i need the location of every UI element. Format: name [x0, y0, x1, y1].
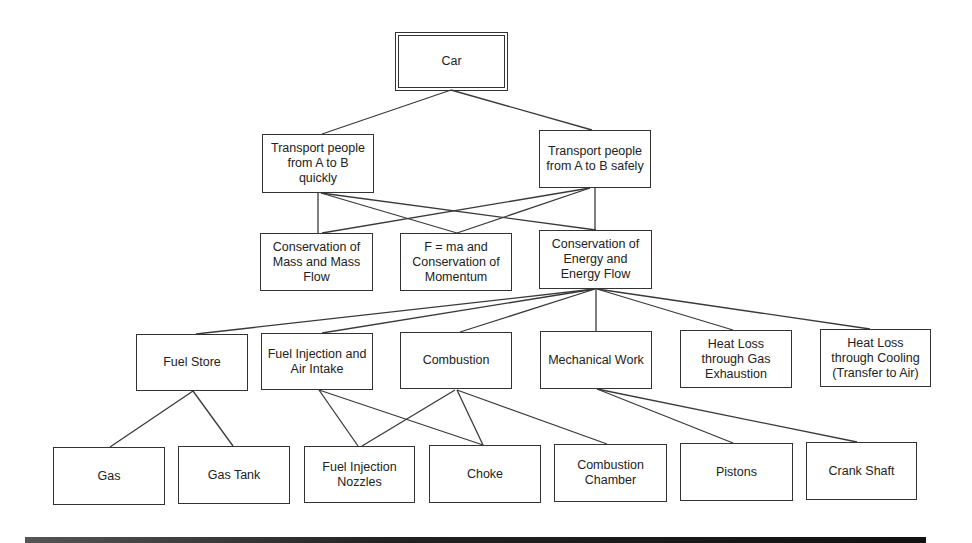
edge-quick-to-fma: [321, 193, 457, 233]
edge-combustion-to-nozzles: [362, 390, 455, 446]
edge-fuelstore-to-gastank: [193, 391, 233, 446]
node-gastank: Gas Tank: [178, 446, 290, 504]
edge-quick-to-energy: [321, 193, 596, 230]
edge-fuelstore-to-gas: [110, 391, 193, 447]
edge-energy-to-combustion: [460, 289, 595, 332]
node-label: Crank Shaft: [828, 464, 894, 479]
node-label: Heat Loss through Gas Exhaustion: [702, 337, 771, 382]
edge-energy-to-heatgas: [597, 289, 733, 330]
node-fuelstore: Fuel Store: [136, 334, 248, 391]
node-label: Conservation of Energy and Energy Flow: [552, 237, 640, 282]
node-nozzles: Fuel Injection Nozzles: [304, 446, 415, 503]
edge-car-to-safe: [451, 90, 592, 130]
node-fma: F = ma and Conservation of Momentum: [400, 233, 512, 291]
car-hierarchy-diagram: CarTransport people from A to B quicklyT…: [0, 0, 972, 543]
node-choke: Choke: [429, 445, 541, 503]
node-fuelinj: Fuel Injection and Air Intake: [261, 333, 373, 390]
node-label: Gas: [98, 469, 121, 484]
node-label: Transport people from A to B quickly: [271, 141, 365, 186]
edge-energy-to-fuelstore: [196, 289, 595, 334]
edge-energy-to-fuelinj: [322, 289, 595, 333]
edge-fuelinj-to-choke: [319, 390, 483, 445]
edge-mech-to-pistons: [597, 389, 733, 443]
node-heatcool: Heat Loss through Cooling (Transfer to A…: [820, 329, 931, 387]
edge-energy-to-heatcool: [597, 289, 870, 329]
node-label: Mechanical Work: [548, 353, 644, 368]
node-label: Car: [441, 54, 461, 69]
node-crank: Crank Shaft: [806, 442, 917, 500]
node-combustion: Combustion: [400, 332, 512, 389]
edge-combustion-to-chamber: [457, 390, 607, 444]
node-label: F = ma and Conservation of Momentum: [412, 240, 500, 285]
node-label: Combustion: [423, 353, 490, 368]
node-label: Fuel Injection Nozzles: [322, 460, 396, 490]
edge-safe-to-mass: [322, 188, 590, 233]
node-label: Pistons: [716, 465, 757, 480]
node-label: Combustion Chamber: [577, 458, 644, 488]
node-label: Choke: [467, 467, 503, 482]
node-heatgas: Heat Loss through Gas Exhaustion: [680, 330, 792, 388]
node-label: Conservation of Mass and Mass Flow: [273, 240, 361, 285]
node-car: Car: [398, 35, 505, 88]
node-gas: Gas: [53, 447, 165, 505]
bottom-rule: [25, 537, 926, 543]
node-pistons: Pistons: [680, 443, 793, 501]
node-label: Gas Tank: [208, 468, 261, 483]
node-chamber: Combustion Chamber: [554, 444, 667, 502]
node-label: Heat Loss through Cooling (Transfer to A…: [831, 336, 919, 381]
node-label: Transport people from A to B safely: [546, 144, 643, 174]
node-quick: Transport people from A to B quickly: [262, 134, 374, 193]
edge-mech-to-crank: [597, 389, 857, 442]
node-mech: Mechanical Work: [540, 331, 652, 389]
node-label: Fuel Injection and Air Intake: [268, 347, 367, 377]
node-safe: Transport people from A to B safely: [539, 130, 651, 188]
edge-car-to-quick: [322, 90, 451, 134]
node-energy: Conservation of Energy and Energy Flow: [539, 230, 652, 289]
node-mass: Conservation of Mass and Mass Flow: [260, 233, 373, 291]
node-label: Fuel Store: [163, 355, 221, 370]
edge-fuelinj-to-nozzles: [319, 390, 358, 446]
